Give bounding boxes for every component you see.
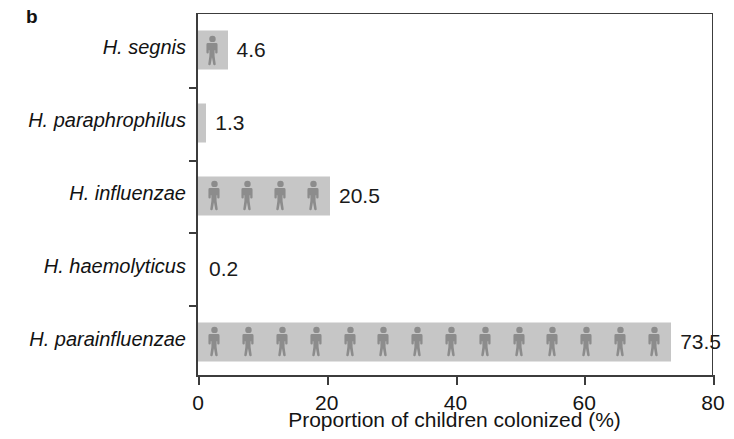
x-tick <box>713 375 715 385</box>
value-label-h-haemolyticus: 0.2 <box>209 257 238 281</box>
category-label-h-haemolyticus: H. haemolyticus <box>44 255 186 278</box>
panel-letter: b <box>26 6 38 28</box>
person-pictogram-icon <box>546 326 559 357</box>
person-pictogram-icon <box>648 326 661 357</box>
y-tick <box>189 305 198 307</box>
person-pictogram-icon <box>411 326 424 357</box>
person-pictogram-icon <box>307 180 320 211</box>
person-pictogram-icon <box>479 326 492 357</box>
person-pictogram-icon <box>208 180 221 211</box>
x-tick <box>584 375 586 385</box>
x-tick <box>198 375 200 385</box>
person-pictogram-icon <box>241 180 254 211</box>
y-tick <box>189 87 198 89</box>
bar-h-paraphrophilus <box>198 104 206 143</box>
person-pictogram-icon <box>206 35 219 66</box>
x-axis-title: Proportion of children colonized (%) <box>196 408 713 432</box>
person-pictogram-icon <box>344 326 357 357</box>
person-pictogram-icon <box>513 326 526 357</box>
category-row: H. paraphrophilus 1.3 <box>198 87 712 160</box>
person-pictogram-icon <box>580 326 593 357</box>
y-tick <box>189 232 198 234</box>
value-label-h-paraphrophilus: 1.3 <box>215 111 244 135</box>
value-label-h-segnis: 4.6 <box>237 38 266 62</box>
bar-h-parainfluenzae <box>198 322 671 361</box>
person-pictogram-icon <box>377 326 390 357</box>
figure-panel-b: b H. segnis 4.6 H. paraphrophilus 1.3 <box>0 0 734 439</box>
y-tick <box>189 160 198 162</box>
category-row: H. influenzae 20.5 <box>198 160 712 233</box>
pictogram-group <box>198 322 671 361</box>
person-pictogram-icon <box>614 326 627 357</box>
category-label-h-paraphrophilus: H. paraphrophilus <box>28 109 186 132</box>
category-label-h-segnis: H. segnis <box>103 36 186 59</box>
bar-h-segnis <box>198 31 228 70</box>
person-pictogram-icon <box>276 326 289 357</box>
category-row: H. haemolyticus 0.2 <box>198 232 712 305</box>
pictogram-group <box>198 176 330 215</box>
pictogram-group <box>198 31 228 70</box>
category-row: H. segnis 4.6 <box>198 14 712 87</box>
x-tick <box>456 375 458 385</box>
x-tick <box>327 375 329 385</box>
category-label-h-influenzae: H. influenzae <box>69 182 186 205</box>
value-label-h-parainfluenzae: 73.5 <box>680 330 721 354</box>
person-pictogram-icon <box>242 326 255 357</box>
value-label-h-influenzae: 20.5 <box>339 184 380 208</box>
person-pictogram-icon <box>274 180 287 211</box>
bar-h-influenzae <box>198 176 330 215</box>
person-pictogram-icon <box>208 326 221 357</box>
person-pictogram-icon <box>445 326 458 357</box>
category-label-h-parainfluenzae: H. parainfluenzae <box>29 328 186 351</box>
pictogram-group <box>198 104 206 143</box>
plot-area: H. segnis 4.6 H. paraphrophilus 1.3 H. i… <box>196 13 713 377</box>
category-row: H. parainfluenzae 73.5 <box>198 305 712 378</box>
person-pictogram-icon <box>310 326 323 357</box>
